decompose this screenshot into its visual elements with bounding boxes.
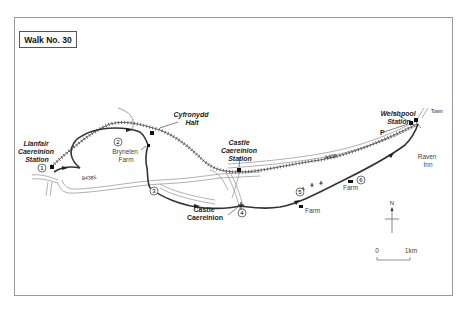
- cyfronydd-halt-marker: [150, 131, 154, 135]
- scale-end: 1km: [405, 247, 417, 254]
- brynelen-farm-label: Brynelen Farm: [112, 148, 139, 163]
- raven-inn-label: Raven Inn: [418, 153, 439, 168]
- farm-label-2: Farm: [343, 184, 358, 191]
- farm-marker-2: [348, 180, 353, 183]
- castle-station-marker: [237, 168, 241, 172]
- cyfronydd-halt-label: Cyfronydd Halt: [174, 111, 211, 126]
- tree-icons: [302, 181, 323, 192]
- a458-label: A458: [324, 152, 337, 160]
- north-arrow: N: [385, 200, 399, 233]
- scale-start: 0: [375, 247, 379, 254]
- castle-station-label: Castle Caereinion Station: [221, 139, 259, 162]
- llanfair-station-label: Llanfair Caereinion Station: [18, 140, 56, 163]
- walk-map: Llanfair Caereinion Station Cyfronydd Ha…: [0, 0, 470, 309]
- raven-inn-marker: [414, 118, 418, 122]
- stream: [118, 108, 133, 130]
- farm-label-1: Farm: [305, 207, 320, 214]
- brynelen-farm-marker: [147, 144, 150, 147]
- town-label: Town: [431, 108, 443, 114]
- farm-marker-1: [299, 205, 303, 208]
- north-label: N: [390, 200, 394, 206]
- llanfair-station-marker: [50, 165, 54, 169]
- parking-label: P: [380, 129, 385, 136]
- scale-bar: 0 1km: [375, 247, 417, 260]
- b4385-label: B4385: [82, 174, 97, 181]
